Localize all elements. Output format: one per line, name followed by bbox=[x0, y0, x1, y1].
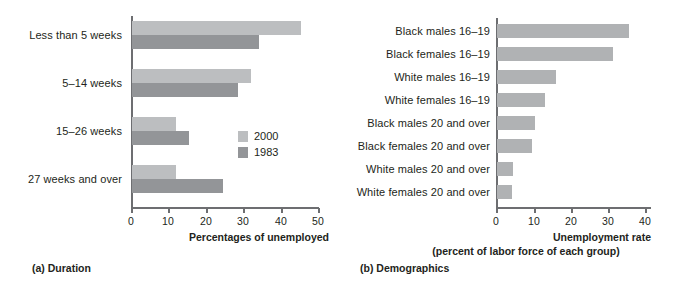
cat-label-black-males-16-19: Black males 16–19 bbox=[344, 25, 490, 37]
panel-duration: 0 10 20 30 40 50 Less than 5 weeks 5–14 … bbox=[0, 0, 344, 286]
legend-item-1983: 1983 bbox=[238, 144, 278, 160]
legend-label-2000: 2000 bbox=[254, 130, 278, 142]
panel-a-tick-label-20: 20 bbox=[191, 215, 221, 227]
panel-a-tick-label-50: 50 bbox=[303, 215, 333, 227]
panel-b-tick-30 bbox=[608, 208, 610, 213]
bar-2000-15-26-weeks bbox=[132, 117, 176, 131]
bar-black-females-20-and-over bbox=[497, 139, 532, 153]
panel-b-tick-label-30: 30 bbox=[593, 215, 623, 227]
panel-b-tick-10 bbox=[534, 208, 536, 213]
panel-a-tick-label-0: 0 bbox=[116, 215, 146, 227]
panel-a-tick-10 bbox=[168, 208, 170, 213]
bar-2000-27-weeks-and-over bbox=[132, 165, 176, 179]
cat-label-white-females-20-and-over: White females 20 and over bbox=[338, 186, 490, 198]
panel-a-tick-20 bbox=[206, 208, 208, 213]
cat-label-white-females-16-19: White females 16–19 bbox=[344, 94, 490, 106]
panel-b-caption: (b) Demographics bbox=[360, 262, 449, 274]
cat-label-black-females-20-and-over: Black females 20 and over bbox=[340, 140, 490, 152]
panel-b-axis-subtitle: (percent of labor force of each group) bbox=[401, 245, 651, 257]
panel-a-x-axis bbox=[131, 207, 319, 209]
panel-b-axis-title: Unemployment rate bbox=[531, 231, 651, 243]
panel-a-tick-30 bbox=[243, 208, 245, 213]
bar-2000-less-than-5-weeks bbox=[132, 21, 301, 35]
panel-b-tick-label-20: 20 bbox=[556, 215, 586, 227]
panel-b-tick-label-0: 0 bbox=[481, 215, 511, 227]
bar-1983-15-26-weeks bbox=[132, 131, 189, 145]
legend-swatch-1983-icon bbox=[238, 147, 248, 158]
cat-label-15-26-weeks: 15–26 weeks bbox=[2, 125, 122, 137]
cat-label-5-14-weeks: 5–14 weeks bbox=[2, 77, 122, 89]
panel-b-tick-label-10: 10 bbox=[519, 215, 549, 227]
bar-1983-5-14-weeks bbox=[132, 83, 238, 97]
legend-label-1983: 1983 bbox=[254, 146, 278, 158]
cat-label-27-weeks-and-over: 27 weeks and over bbox=[0, 173, 122, 185]
panel-b-tick-0 bbox=[496, 208, 498, 213]
unemployment-figure: 0 10 20 30 40 50 Less than 5 weeks 5–14 … bbox=[0, 0, 688, 286]
panel-a-tick-50 bbox=[318, 208, 320, 213]
cat-label-white-males-16-19: White males 16–19 bbox=[344, 71, 490, 83]
bar-1983-less-than-5-weeks bbox=[132, 35, 259, 49]
bar-black-males-16-19 bbox=[497, 24, 629, 38]
bar-black-females-16-19 bbox=[497, 47, 613, 61]
bar-1983-27-weeks-and-over bbox=[132, 179, 223, 193]
legend-item-2000: 2000 bbox=[238, 128, 278, 144]
bar-white-females-20-and-over bbox=[497, 185, 512, 199]
cat-label-black-females-16-19: Black females 16–19 bbox=[344, 48, 490, 60]
bar-white-males-16-19 bbox=[497, 70, 556, 84]
panel-a-tick-label-10: 10 bbox=[153, 215, 183, 227]
panel-a-caption: (a) Duration bbox=[32, 262, 91, 274]
panel-b-tick-40 bbox=[645, 208, 647, 213]
cat-label-white-males-20-and-over: White males 20 and over bbox=[340, 163, 490, 175]
panel-b-tick-20 bbox=[571, 208, 573, 213]
panel-a-tick-label-30: 30 bbox=[228, 215, 258, 227]
panel-a-tick-40 bbox=[281, 208, 283, 213]
panel-a-tick-0 bbox=[131, 208, 133, 213]
bar-white-females-16-19 bbox=[497, 93, 545, 107]
bar-2000-5-14-weeks bbox=[132, 69, 251, 83]
legend-swatch-2000-icon bbox=[238, 131, 248, 142]
bar-white-males-20-and-over bbox=[497, 162, 513, 176]
bar-black-males-20-and-over bbox=[497, 116, 535, 130]
cat-label-less-than-5-weeks: Less than 5 weeks bbox=[2, 29, 122, 41]
panel-a-tick-label-40: 40 bbox=[266, 215, 296, 227]
panel-b-tick-label-40: 40 bbox=[630, 215, 660, 227]
panel-a-axis-title: Percentages of unemployed bbox=[179, 231, 329, 243]
panel-a-legend: 2000 1983 bbox=[238, 128, 278, 160]
panel-demographics: 0 10 20 30 40 Black males 16–19 Black fe… bbox=[344, 0, 688, 286]
panel-b-x-axis bbox=[496, 207, 651, 209]
cat-label-black-males-20-and-over: Black males 20 and over bbox=[344, 117, 490, 129]
